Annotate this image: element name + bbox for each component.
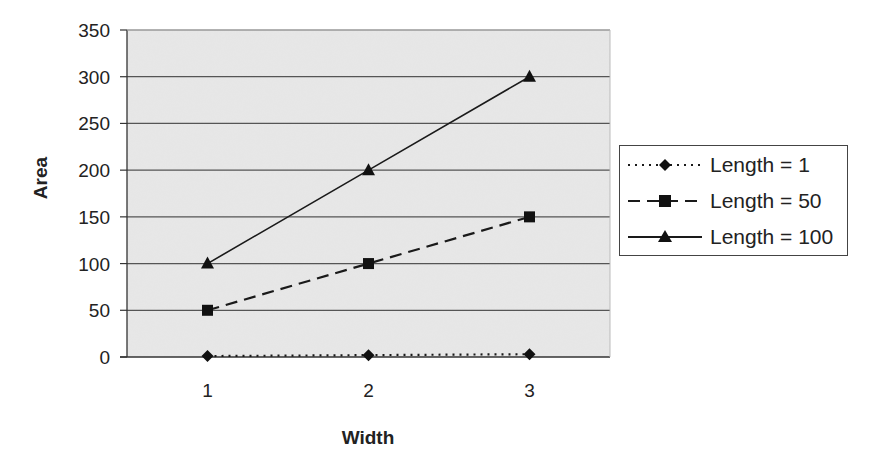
dotted-diamond-line-icon	[626, 150, 704, 180]
square-marker	[524, 211, 535, 222]
legend-label: Length = 100	[710, 225, 833, 249]
y-tick-label: 50	[89, 300, 110, 321]
y-tick-label: 150	[78, 207, 110, 228]
solid-triangle-line-icon	[626, 222, 704, 252]
y-axis: 050100150200250300350	[78, 20, 127, 368]
legend-item-length-50: Length = 50	[626, 186, 822, 216]
y-tick-label: 100	[78, 254, 110, 275]
y-axis-title: Area	[30, 156, 51, 199]
y-tick-label: 0	[99, 347, 110, 368]
square-marker	[202, 305, 213, 316]
y-tick-label: 250	[78, 113, 110, 134]
legend-label: Length = 50	[710, 189, 822, 213]
y-tick-label: 300	[78, 67, 110, 88]
legend-item-length-100: Length = 100	[626, 222, 833, 252]
plot-texture	[127, 30, 610, 357]
x-axis-title: Width	[342, 427, 395, 448]
y-tick-label: 200	[78, 160, 110, 181]
x-tick-label: 3	[524, 380, 535, 401]
square-marker	[363, 258, 374, 269]
y-tick-label: 350	[78, 20, 110, 41]
x-tick-label: 2	[363, 380, 374, 401]
legend-item-length-1: Length = 1	[626, 150, 810, 180]
legend: Length = 1 Length = 50 Length = 100	[619, 145, 848, 256]
dashed-square-line-icon	[626, 186, 704, 216]
x-tick-label: 1	[202, 380, 213, 401]
legend-label: Length = 1	[710, 153, 810, 177]
